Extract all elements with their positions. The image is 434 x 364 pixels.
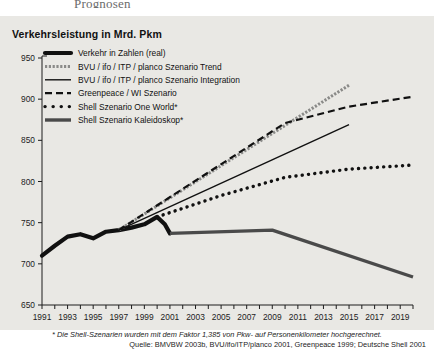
y-tick-label: 950 [21,53,35,63]
legend-label: Verkehr in Zahlen (real) [78,48,166,58]
top-heading: Prognosen [74,0,131,8]
x-tick-label: 1991 [33,312,52,322]
y-tick-label: 750 [21,218,35,228]
x-tick-label: 2011 [289,312,307,322]
x-tick-label: 2009 [263,312,282,322]
x-tick-label: 2013 [314,312,333,322]
legend-item: Greenpeace / WI Szenario [45,88,177,98]
legend-label: Shell Szenario One World* [78,102,178,112]
x-tick-label: 1995 [84,312,103,322]
y-tick-label: 650 [21,300,35,310]
legend-item: Shell Szenario One World* [45,102,178,112]
series-line [170,230,413,277]
x-tick-label: 1997 [109,312,128,322]
series-line [119,125,349,230]
y-tick-label: 850 [21,135,35,145]
footnote-source: Quelle: BMVBW 2003b, BVU/ifo/ITP/planco … [0,340,434,350]
line-chart: 6507007508008509009501991199319951997199… [0,16,434,330]
x-tick-label: 2017 [365,312,384,322]
legend-item: BVU / ifo / ITP / planco Szenario Trend [45,62,222,72]
x-tick-label: 1993 [58,312,77,322]
x-tick-label: 2007 [237,312,256,322]
chart-panel: Verkehrsleistung in Mrd. Pkm 65070075080… [0,16,434,330]
legend-label: Shell Szenario Kaleidoskop* [78,115,184,125]
series-line [42,217,170,256]
legend-item: Verkehr in Zahlen (real) [45,48,166,58]
x-tick-label: 2015 [340,312,359,322]
footnote-note: * Die Shell-Szenarien wurden mit dem Fak… [0,330,434,340]
x-tick-label: 2001 [161,312,180,322]
legend-label: BVU / ifo / ITP / planco Szenario Trend [78,62,222,72]
legend-item: BVU / ifo / ITP / planco Szenario Integr… [45,75,240,85]
legend-label: Greenpeace / WI Szenario [78,88,177,98]
y-tick-label: 700 [21,259,35,269]
legend-item: Shell Szenario Kaleidoskop* [45,115,184,125]
chart-page: Prognosen Verkehrsleistung in Mrd. Pkm 6… [0,0,434,364]
x-tick-label: 2005 [212,312,231,322]
legend-label: BVU / ifo / ITP / planco Szenario Integr… [78,75,240,85]
x-tick-label: 2003 [186,312,205,322]
y-tick-label: 900 [21,94,35,104]
x-tick-label: 1999 [135,312,154,322]
y-tick-label: 800 [21,177,35,187]
series-line [157,165,413,217]
x-tick-label: 2019 [391,312,410,322]
footnotes-block: * Die Shell-Szenarien wurden mit dem Fak… [0,330,434,350]
